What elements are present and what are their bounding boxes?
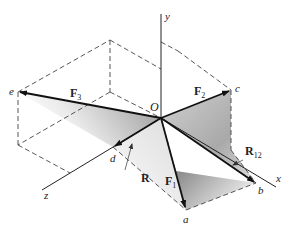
diagram-svg: y z x O e c d a b F3 F2 F1 R12 R (0, 0, 289, 228)
plane-F1-b (176, 171, 256, 210)
label-axis-z: z (43, 189, 49, 201)
label-F3: F3 (70, 86, 81, 102)
label-axis-x: x (275, 172, 281, 184)
label-R: R (141, 171, 150, 185)
label-point-d: d (110, 152, 116, 164)
force-diagram: y z x O e c d a b F3 F2 F1 R12 R (0, 0, 289, 228)
label-R12: R12 (245, 144, 262, 160)
label-point-b: b (258, 184, 264, 196)
label-F2: F2 (194, 84, 205, 100)
shaded-planes (18, 90, 256, 210)
label-axis-y: y (164, 10, 170, 22)
label-origin: O (150, 100, 159, 114)
label-point-e: e (9, 85, 14, 97)
label-point-a: a (183, 213, 189, 225)
label-point-c: c (235, 82, 240, 94)
